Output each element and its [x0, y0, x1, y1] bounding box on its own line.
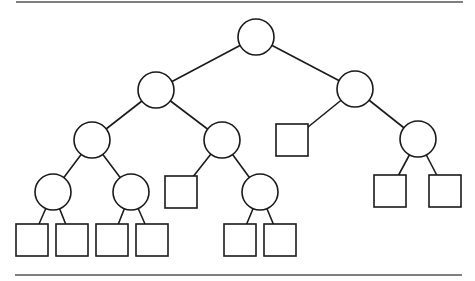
internal-node-circle	[400, 121, 436, 157]
external-node-square	[224, 224, 256, 256]
internal-node-circle	[238, 19, 274, 55]
external-node-square	[96, 224, 128, 256]
internal-node-circle	[242, 174, 278, 210]
external-node-square	[429, 175, 461, 207]
external-node-square	[16, 224, 48, 256]
internal-node-circle	[74, 122, 110, 158]
external-node-square	[56, 224, 88, 256]
internal-node-circle	[204, 122, 240, 158]
external-node-square	[276, 124, 308, 156]
internal-node-circle	[113, 174, 149, 210]
external-node-square	[165, 176, 197, 208]
internal-node-circle	[337, 71, 373, 107]
internal-node-circle	[138, 72, 174, 108]
external-node-square	[136, 224, 168, 256]
binary-tree-diagram	[0, 0, 475, 281]
internal-node-circle	[35, 174, 71, 210]
external-node-square	[374, 175, 406, 207]
tree-nodes	[16, 19, 461, 256]
external-node-square	[264, 224, 296, 256]
